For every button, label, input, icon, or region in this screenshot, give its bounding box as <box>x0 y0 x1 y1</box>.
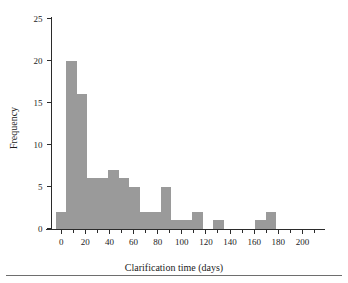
histogram-bar <box>119 178 129 228</box>
y-tick-label: 0 <box>38 224 43 234</box>
histogram-bar <box>87 178 97 228</box>
x-tick-label: 180 <box>272 237 286 247</box>
x-tick-label: 120 <box>199 237 213 247</box>
plot-area: 020406080100120140160180200 0510152025 C… <box>0 0 348 283</box>
x-tick-label: 40 <box>105 237 115 247</box>
histogram-figure: 020406080100120140160180200 0510152025 C… <box>0 0 348 283</box>
x-axis-title: Clarification time (days) <box>125 262 223 274</box>
histogram-bar <box>108 170 118 229</box>
y-tick-label: 25 <box>34 14 44 24</box>
histogram-bar <box>255 220 265 228</box>
x-tick-label: 80 <box>153 237 163 247</box>
histogram-bar <box>140 212 150 229</box>
histogram-bar <box>66 61 76 229</box>
histogram-bar <box>77 94 87 228</box>
x-tick-label: 100 <box>175 237 189 247</box>
x-tick-label: 20 <box>81 237 91 247</box>
y-tick-label: 20 <box>34 56 44 66</box>
page-divider-rule <box>6 275 342 276</box>
histogram-bar <box>161 187 171 229</box>
histogram-bar <box>98 178 108 228</box>
histogram-bar <box>182 220 192 228</box>
histogram-bar <box>192 212 202 229</box>
histogram-bar <box>150 212 160 229</box>
clarification-time-histogram: 020406080100120140160180200 0510152025 C… <box>0 0 348 283</box>
x-tick-label: 0 <box>59 237 64 247</box>
y-axis-title: Frequency <box>8 107 19 149</box>
x-tick-label: 160 <box>247 237 261 247</box>
histogram-bar <box>213 220 223 228</box>
x-tick-label: 60 <box>129 237 139 247</box>
y-tick-label: 15 <box>34 98 44 108</box>
histogram-bar <box>56 212 66 229</box>
y-tick-label: 5 <box>38 182 43 192</box>
x-tick-label: 200 <box>296 237 310 247</box>
histogram-bar <box>171 220 181 228</box>
x-tick-label: 140 <box>223 237 237 247</box>
histogram-bar <box>266 212 276 229</box>
y-tick-label: 10 <box>34 140 44 150</box>
histogram-bar <box>129 187 139 229</box>
